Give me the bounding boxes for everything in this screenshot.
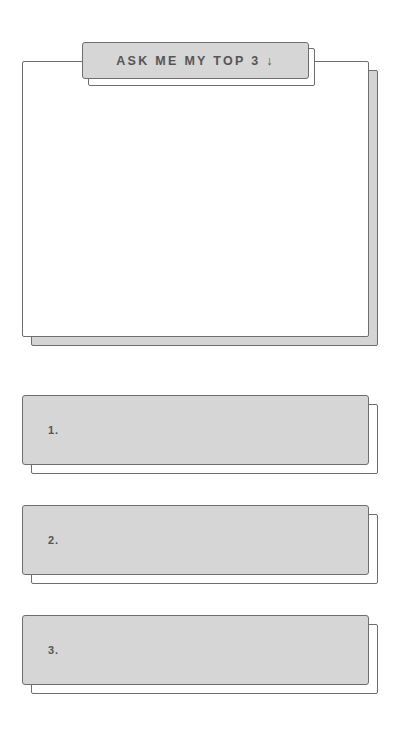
list-item-3[interactable]: 3.: [22, 615, 369, 685]
list-item-1[interactable]: 1.: [22, 395, 369, 465]
list-item-number: 2.: [48, 534, 59, 546]
ask-top-3-button[interactable]: ASK ME MY TOP 3 ↓: [82, 42, 309, 79]
answer-panel: [22, 61, 369, 337]
list-item-number: 1.: [48, 424, 59, 436]
list-item-2[interactable]: 2.: [22, 505, 369, 575]
ask-top-3-label: ASK ME MY TOP 3 ↓: [116, 54, 275, 68]
list-item-number: 3.: [48, 644, 59, 656]
